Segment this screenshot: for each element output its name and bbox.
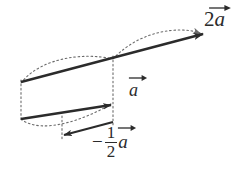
label-a-symbol-stack: a	[129, 81, 138, 99]
label-2a-scalar: 2	[204, 7, 215, 31]
label-2a-symbol-stack: a	[215, 9, 226, 30]
vectors	[21, 34, 203, 135]
label-negative-half-a: −12a	[92, 126, 128, 161]
label-a: a	[129, 81, 138, 99]
fraction-one-half: 12	[105, 125, 118, 160]
label-2a: 2a	[204, 9, 225, 30]
label-half-sign: −	[92, 131, 103, 152]
fraction-denominator: 2	[105, 144, 118, 160]
label-a-symbol: a	[129, 80, 138, 100]
construction-arcs	[21, 30, 200, 126]
label-half-symbol-stack: a	[118, 132, 128, 151]
label-2a-symbol: a	[215, 7, 226, 31]
vector-2a	[21, 34, 203, 82]
fraction-numerator: 1	[105, 125, 118, 141]
label-half-symbol: a	[118, 131, 128, 152]
vector-a	[21, 105, 111, 119]
